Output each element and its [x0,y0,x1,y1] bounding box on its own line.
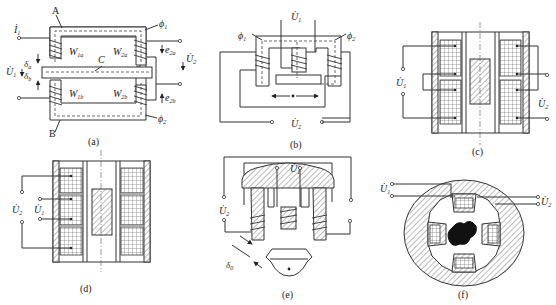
panel-b: U̇1 ϕ1 ϕ2 U̇2 (b) [220,11,355,151]
coil-f-right [488,225,498,243]
output-terminal-c-top [545,73,548,76]
caption-a: (a) [88,136,99,148]
label-output-voltage-b: U̇2 [291,118,301,130]
label-output-voltage-f: U̇2 [541,196,551,208]
label-input-voltage-b: U̇1 [291,11,301,23]
core-cap-e [242,163,334,188]
coil-f-left [430,225,440,243]
label-output-voltage-e: U̇2 [219,205,229,217]
label-emf-2b: e2b [165,92,175,104]
label-current: İ1 [13,24,20,36]
label-flux-1-b: ϕ1 [238,30,246,42]
output-terminal-f-top [536,195,539,198]
label-output-voltage: U̇2 [186,53,196,65]
winding-d-left-3 [60,227,82,255]
panel-d: U̇2 U̇1 (d) [12,150,150,295]
output-terminal-d-bottom [20,220,23,223]
winding-d-right-2 [121,195,143,225]
rotor-e [266,249,312,276]
label-coil-w2b: W2b [113,88,127,100]
coil-f-top [455,198,473,208]
input-terminal-c-bottom [401,92,404,95]
caption-d: (d) [80,283,92,295]
label-flux-2-b: ϕ2 [347,30,355,42]
core-b [50,80,146,120]
label-coil-w2a: W2a [113,46,127,58]
winding-d-left-1 [60,168,82,193]
input-terminal-d-top [38,197,41,200]
armature-c [42,67,152,78]
armature-b [276,75,321,84]
label-output-voltage-d: U̇2 [12,204,22,216]
label-coil-w1a: W1a [69,46,83,58]
input-terminal-top [17,36,20,39]
output-terminal-left [270,120,273,123]
input-terminal-f-bottom [390,194,393,197]
caption-f: (f) [458,289,468,301]
output-terminal-d-top [20,190,23,193]
label-input-voltage-d: U̇1 [34,204,44,216]
input-terminal-bottom [17,96,20,99]
panel-e: U̇1 U̇2 δ0 (e) [219,157,353,301]
input-terminal-d-bottom [38,217,41,220]
winding-d-right-1 [121,168,143,193]
output-terminal-c-bottom [545,117,548,120]
panel-a: A B C İ1 U̇1 δa δb W1a W2a W1b W2b ϕ1 ϕ2… [6,5,196,148]
label-emf-2a: e2a [165,44,175,56]
plunger-d [92,189,112,235]
coil-f-bottom [455,258,473,268]
output-terminal-f-bottom [536,202,539,205]
label-output-voltage-c: U̇2 [538,98,548,110]
label-armature-c: C [98,54,105,65]
panel-c: U̇1 U̇2 (c) [396,22,549,158]
label-gap-e: δ0 [226,260,233,271]
input-terminal-f-top [390,182,393,185]
caption-e: (e) [282,289,293,301]
label-coil-w1b: W1b [69,88,83,100]
label-gap-b: δb [24,71,31,82]
output-terminal-top [178,39,181,42]
label-core-a: A [52,5,60,16]
winding-left-lower [440,80,461,124]
label-input-voltage-c: U̇1 [396,77,406,89]
input-terminal-c-top [401,67,404,70]
label-flux-1: ϕ1 [159,18,167,30]
caption-c: (c) [472,146,483,158]
panel-f: U̇1 U̇2 (f) [380,180,551,301]
winding-left-upper [440,40,461,76]
figure-canvas: A B C İ1 U̇1 δa δb W1a W2a W1b W2b ϕ1 ϕ2… [0,0,556,305]
caption-b: (b) [290,139,302,151]
label-flux-2: ϕ2 [158,113,166,125]
leg-left-e [251,188,264,240]
label-input-voltage: U̇1 [6,66,16,78]
output-terminal-bottom [178,82,181,85]
winding-d-right-3 [121,227,143,255]
label-core-b: B [49,128,56,139]
leg-right-e [313,188,326,240]
label-gap-a: δa [24,59,31,70]
label-input-voltage-f: U̇1 [380,183,390,195]
